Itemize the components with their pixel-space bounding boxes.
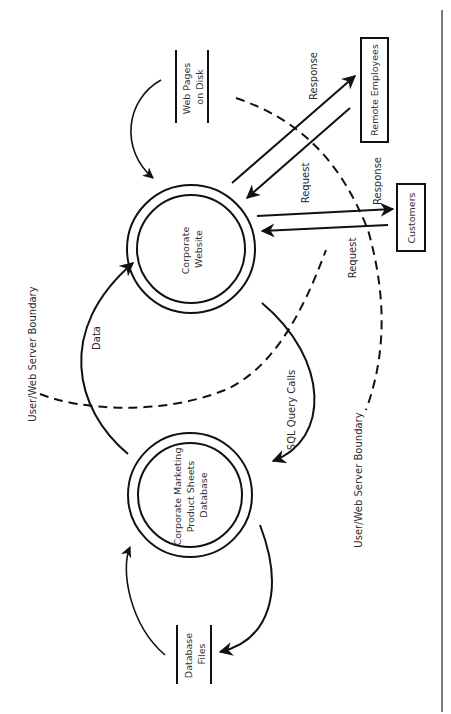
flow-data-to-website[interactable] xyxy=(81,263,133,454)
data-flow-diagram: Corporate Website Corporate Marketing Pr… xyxy=(0,0,451,714)
flow-request-from-customers[interactable] xyxy=(262,225,388,231)
boundary-label-left: User/Web Server Boundary xyxy=(27,286,38,421)
flow-label-request-customers: Request xyxy=(347,238,358,279)
flow-label-response-customers: Response xyxy=(372,157,383,205)
process-marketing-database[interactable]: Corporate Marketing Product Sheets Datab… xyxy=(128,433,252,557)
flow-label-response-remote: Response xyxy=(308,52,319,100)
process-label: Corporate Marketing Product Sheets Datab… xyxy=(172,445,209,546)
flow-label-request-remote: Request xyxy=(300,163,311,204)
process-corporate-website[interactable]: Corporate Website xyxy=(127,185,255,313)
flow-label-sql-query-calls: SQL Query Calls xyxy=(286,370,297,450)
datastore-label: Database Files xyxy=(183,630,207,678)
datastore-label: Web Pages on Disk xyxy=(181,60,205,115)
datastore-database-files[interactable]: Database Files xyxy=(177,625,211,684)
entity-customers[interactable]: Customers xyxy=(397,184,425,251)
flow-db-files-to-database[interactable] xyxy=(126,547,165,655)
flow-response-to-customers[interactable] xyxy=(257,209,393,216)
flow-web-pages-to-website[interactable] xyxy=(131,80,161,178)
entity-label: Remote Employees xyxy=(369,44,380,136)
process-label: Corporate Website xyxy=(180,224,204,275)
entity-label: Customers xyxy=(406,192,417,243)
boundary-label-right: User/Web Server Boundary xyxy=(353,412,364,547)
process-outer-ring xyxy=(127,185,255,313)
flow-label-data: Data xyxy=(91,326,102,350)
process-inner-ring xyxy=(137,195,245,303)
entity-remote-employees[interactable]: Remote Employees xyxy=(361,38,388,142)
datastore-web-pages[interactable]: Web Pages on Disk xyxy=(176,50,208,123)
flow-response-to-remote-employees[interactable] xyxy=(232,76,355,183)
flow-request-from-remote-employees[interactable] xyxy=(247,108,350,198)
